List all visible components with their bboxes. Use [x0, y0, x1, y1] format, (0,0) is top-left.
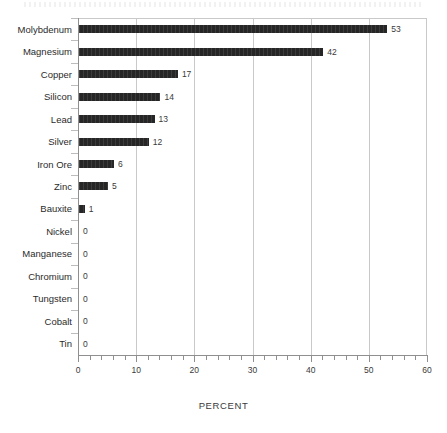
x-axis-title: PERCENT [0, 400, 447, 411]
bar-row: Tin0 [0, 333, 447, 355]
x-tick-minor [101, 356, 102, 360]
category-label: Cobalt [0, 316, 72, 327]
bar-value-label: 0 [83, 226, 88, 236]
x-tick-label: 50 [364, 365, 373, 376]
y-axis-tick [71, 40, 78, 41]
bar-and-value: 6 [79, 153, 123, 175]
bar [79, 138, 149, 146]
x-tick-minor [218, 356, 219, 360]
bar-row: Silicon14 [0, 85, 447, 107]
x-tick-minor [322, 356, 323, 360]
bar-value-label: 0 [83, 294, 88, 304]
bar-and-value: 0 [79, 333, 88, 355]
category-label: Silver [0, 136, 72, 147]
x-tick-minor [299, 356, 300, 360]
category-label: Chromium [0, 271, 72, 282]
bar-row: Magnesium42 [0, 40, 447, 62]
bar-row: Iron Ore6 [0, 153, 447, 175]
x-tick-minor [171, 356, 172, 360]
x-tick-label: 20 [190, 365, 199, 376]
bar [79, 93, 160, 101]
bar-row: Copper17 [0, 63, 447, 85]
bar-and-value: 17 [79, 63, 191, 85]
x-tick-major [311, 356, 312, 362]
bar [79, 205, 85, 213]
y-axis-tick [71, 18, 78, 19]
x-tick-minor [241, 356, 242, 360]
x-tick-label: 30 [248, 365, 257, 376]
category-label: Nickel [0, 226, 72, 237]
x-tick-minor [264, 356, 265, 360]
bar-value-label: 42 [327, 47, 336, 57]
x-tick-label: 40 [306, 365, 315, 376]
bar-value-label: 17 [182, 69, 191, 79]
x-tick-minor [357, 356, 358, 360]
bar-value-label: 0 [83, 249, 88, 259]
x-tick-minor [334, 356, 335, 360]
y-axis-tick [71, 198, 78, 199]
bar [79, 160, 114, 168]
x-tick-label: 60 [422, 365, 431, 376]
y-axis-tick [71, 175, 78, 176]
x-tick-major [427, 356, 428, 362]
x-tick-minor [113, 356, 114, 360]
category-label: Zinc [0, 181, 72, 192]
bar-row: Nickel0 [0, 220, 447, 242]
bar-and-value: 0 [79, 243, 88, 265]
bar [79, 48, 323, 56]
x-tick-minor [287, 356, 288, 360]
x-tick-major [136, 356, 137, 362]
x-tick-minor [276, 356, 277, 360]
bar-value-label: 13 [159, 114, 168, 124]
bar-row: Chromium0 [0, 265, 447, 287]
bar-chart: Molybdenum53Magnesium42Copper17Silicon14… [0, 0, 447, 433]
bar-rows: Molybdenum53Magnesium42Copper17Silicon14… [0, 18, 447, 355]
bar [79, 70, 178, 78]
scan-artifact [24, 2, 424, 7]
x-axis-ticks [78, 356, 428, 362]
y-axis-tick [71, 333, 78, 334]
category-label: Copper [0, 69, 72, 80]
bar-value-label: 12 [153, 137, 162, 147]
x-tick-minor [183, 356, 184, 360]
bar-row: Zinc5 [0, 175, 447, 197]
bar-row: Tungsten0 [0, 288, 447, 310]
bar-row: Molybdenum53 [0, 18, 447, 40]
y-axis-tick [71, 243, 78, 244]
category-label: Tungsten [0, 293, 72, 304]
bar-and-value: 1 [79, 198, 94, 220]
y-axis-tick [71, 265, 78, 266]
x-tick-minor [415, 356, 416, 360]
bar-value-label: 6 [118, 159, 123, 169]
x-tick-minor [404, 356, 405, 360]
x-tick-major [253, 356, 254, 362]
x-tick-minor [229, 356, 230, 360]
x-tick-minor [346, 356, 347, 360]
bar-and-value: 0 [79, 220, 88, 242]
y-axis-tick [71, 153, 78, 154]
bar [79, 25, 387, 33]
x-tick-minor [90, 356, 91, 360]
x-tick-minor [206, 356, 207, 360]
y-axis-tick [71, 108, 78, 109]
bar-and-value: 53 [79, 18, 401, 40]
y-axis-tick [71, 310, 78, 311]
bar-and-value: 13 [79, 108, 168, 130]
bar-value-label: 14 [164, 92, 173, 102]
category-label: Magnesium [0, 46, 72, 57]
bar-and-value: 42 [79, 40, 337, 62]
y-axis-tick [71, 63, 78, 64]
bar-value-label: 53 [391, 24, 400, 34]
bar-value-label: 0 [83, 316, 88, 326]
x-tick-minor [392, 356, 393, 360]
bar [79, 115, 155, 123]
x-tick-minor [159, 356, 160, 360]
y-axis-tick [71, 85, 78, 86]
bar-and-value: 5 [79, 175, 117, 197]
x-tick-major [369, 356, 370, 362]
bar-row: Silver12 [0, 130, 447, 152]
x-tick-major [78, 356, 79, 362]
x-tick-minor [148, 356, 149, 360]
category-label: Iron Ore [0, 159, 72, 170]
bar-row: Manganese0 [0, 243, 447, 265]
